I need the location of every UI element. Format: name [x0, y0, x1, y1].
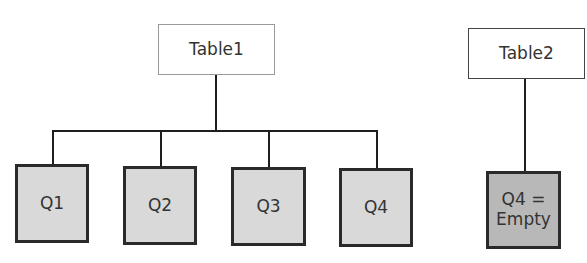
q1-connector: [52, 130, 54, 166]
q4-empty-label-line1: Q4 =: [502, 190, 546, 210]
q3-label: Q3: [256, 197, 280, 217]
table2-node: Table2: [468, 28, 585, 79]
table1-node: Table1: [158, 24, 275, 75]
q1-node: Q1: [15, 164, 89, 243]
table2-connector: [524, 79, 526, 172]
table1-stem-connector: [215, 75, 217, 132]
q4-connector: [376, 131, 378, 170]
q3-connector: [268, 131, 270, 169]
table1-label: Table1: [189, 40, 244, 60]
q4-empty-label-line2: Empty: [496, 210, 551, 230]
table2-label: Table2: [499, 44, 554, 64]
q4-node: Q4: [339, 168, 413, 247]
q4-label: Q4: [364, 198, 388, 218]
q2-label: Q2: [148, 196, 172, 216]
q4-empty-node: Q4 = Empty: [486, 171, 561, 249]
q3-node: Q3: [231, 167, 306, 246]
q2-node: Q2: [123, 166, 197, 245]
q1-label: Q1: [40, 194, 64, 214]
q2-connector: [160, 130, 162, 168]
table1-bus-connector: [52, 130, 378, 132]
